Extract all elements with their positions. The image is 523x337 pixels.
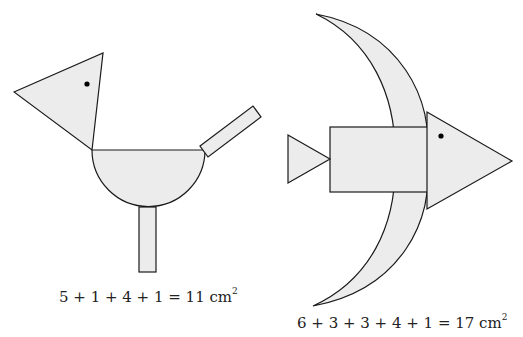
bird-eye	[84, 81, 89, 86]
fish-head-triangle	[427, 112, 512, 209]
bird-body-semicircle	[92, 150, 205, 207]
bird-head-triangle	[14, 53, 103, 150]
fish-tail-triangle	[288, 135, 330, 183]
bird-tail-rectangle	[200, 106, 261, 157]
fish-figure	[288, 14, 512, 306]
fish-area-exponent: 2	[502, 312, 508, 322]
bird-area-exponent: 2	[232, 286, 238, 296]
bird-leg-rectangle	[139, 207, 156, 272]
fish-area-caption: 6 + 3 + 3 + 4 + 1 = 17 cm2	[297, 314, 507, 332]
fish-area-expression: 6 + 3 + 3 + 4 + 1 = 17 cm	[297, 314, 502, 332]
shapes-canvas	[0, 0, 523, 337]
fish-body-rectangle	[330, 127, 428, 192]
bird-area-expression: 5 + 1 + 4 + 1 = 11 cm	[59, 288, 232, 306]
bird-figure	[14, 53, 261, 272]
bird-area-caption: 5 + 1 + 4 + 1 = 11 cm2	[59, 288, 238, 306]
fish-eye	[438, 133, 443, 138]
